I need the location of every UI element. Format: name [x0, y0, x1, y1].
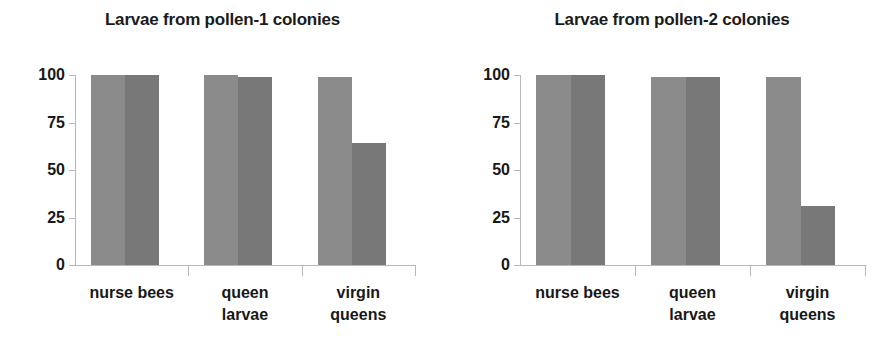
plot-area: 0255075100 [520, 75, 865, 265]
bar-group [91, 75, 159, 265]
y-axis-tick-label: 75 [458, 115, 510, 131]
bar-groups [520, 75, 865, 265]
y-axis-tick-label: 75 [13, 115, 65, 131]
chart-panel-pollen-1: Larvae from pollen-1 colonies 0255075100… [0, 0, 445, 361]
y-axis-tick [514, 265, 520, 266]
x-axis-label-line: nurse bees [75, 282, 188, 304]
y-axis-tick-label: 0 [458, 257, 510, 273]
bar-light-series-virgin-queens [766, 77, 801, 265]
x-axis-label-line: virgin [750, 282, 865, 304]
bar-light-series-virgin-queens [318, 77, 352, 265]
x-axis-line [75, 265, 416, 266]
bar-light-series-queen-larvae [204, 75, 238, 265]
bar-group [651, 75, 720, 265]
x-axis-separator-tick [302, 265, 303, 276]
bar-group [204, 75, 272, 265]
y-axis-tick-label: 0 [13, 257, 65, 273]
bar-group [766, 75, 835, 265]
plot-area: 0255075100 [75, 75, 415, 265]
bar-light-series-nurse-bees [91, 75, 125, 265]
chart-panel-pollen-2: Larvae from pollen-2 colonies 0255075100… [445, 0, 891, 361]
bar-dark-series-nurse-bees [571, 75, 606, 265]
y-axis-tick [69, 75, 75, 76]
x-axis-label-line: queen [188, 282, 301, 304]
x-axis-separator-tick [415, 265, 416, 276]
x-axis-label-line: queens [302, 304, 415, 326]
x-axis-separator-tick [865, 265, 866, 276]
x-axis-label-line: larvae [635, 304, 750, 326]
y-axis-tick-label: 50 [458, 162, 510, 178]
x-axis-label: virginqueens [750, 282, 865, 325]
bar-light-series-nurse-bees [536, 75, 571, 265]
bar-group [318, 75, 386, 265]
bar-dark-series-queen-larvae [686, 77, 721, 265]
y-axis-tick-label: 25 [13, 210, 65, 226]
x-axis-label: nurse bees [520, 282, 635, 304]
y-axis-tick [69, 170, 75, 171]
x-axis-label-line: larvae [188, 304, 301, 326]
chart-title: Larvae from pollen-1 colonies [0, 10, 445, 30]
bar-dark-series-nurse-bees [125, 75, 159, 265]
y-axis-tick [69, 123, 75, 124]
y-axis-tick [69, 265, 75, 266]
y-axis-tick [69, 218, 75, 219]
x-axis-label-line: virgin [302, 282, 415, 304]
y-axis-tick [514, 75, 520, 76]
x-axis-label: queenlarvae [635, 282, 750, 325]
x-axis-labels: nurse beesqueenlarvaevirginqueens [520, 282, 865, 352]
x-axis-label-line: nurse bees [520, 282, 635, 304]
x-axis-label: nurse bees [75, 282, 188, 304]
y-axis-tick-label: 100 [458, 67, 510, 83]
x-axis-labels: nurse beesqueenlarvaevirginqueens [75, 282, 415, 352]
bar-dark-series-virgin-queens [801, 206, 836, 265]
x-axis-label: queenlarvae [188, 282, 301, 325]
x-axis-label-line: queen [635, 282, 750, 304]
x-axis-separator-tick [635, 265, 636, 276]
y-axis-tick-label: 50 [13, 162, 65, 178]
x-axis-separator-tick [750, 265, 751, 276]
bar-dark-series-queen-larvae [238, 77, 272, 265]
chart-figure: Larvae from pollen-1 colonies 0255075100… [0, 0, 891, 361]
x-axis-line [520, 265, 866, 266]
y-axis-tick [514, 170, 520, 171]
x-axis-label-line: queens [750, 304, 865, 326]
y-axis-tick [514, 123, 520, 124]
y-axis-tick-label: 25 [458, 210, 510, 226]
bar-group [536, 75, 605, 265]
bar-dark-series-virgin-queens [352, 143, 386, 265]
y-axis-tick [514, 218, 520, 219]
x-axis-label: virginqueens [302, 282, 415, 325]
bar-light-series-queen-larvae [651, 77, 686, 265]
y-axis-tick-label: 100 [13, 67, 65, 83]
x-axis-separator-tick [188, 265, 189, 276]
chart-title: Larvae from pollen-2 colonies [445, 10, 891, 30]
bar-groups [75, 75, 415, 265]
